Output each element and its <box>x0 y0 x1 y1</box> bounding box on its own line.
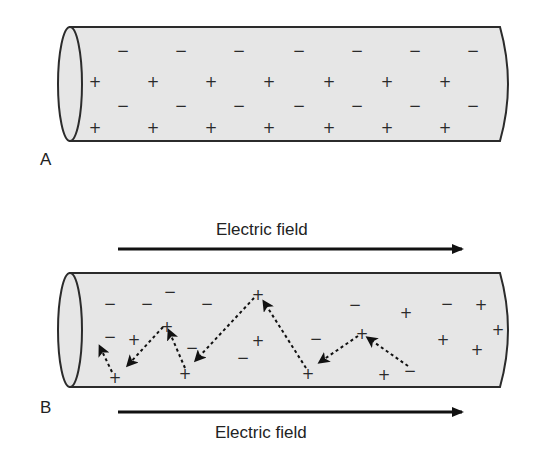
positive-charge: + <box>205 73 218 91</box>
positive-charge: + <box>323 119 336 137</box>
negative-charge: − <box>349 296 362 314</box>
positive-charge: + <box>439 73 452 91</box>
negative-charge: − <box>409 97 422 115</box>
negative-charge: − <box>186 339 199 357</box>
electric-field-label-bottom: Electric field <box>215 423 307 443</box>
negative-charge: − <box>164 283 177 301</box>
positive-charge: + <box>323 73 336 91</box>
negative-charge: − <box>175 97 188 115</box>
positive-charge: + <box>161 318 174 336</box>
positive-charge: + <box>439 119 452 137</box>
negative-charge: − <box>117 42 130 60</box>
positive-charge: + <box>400 304 413 322</box>
positive-charge: + <box>381 73 394 91</box>
positive-charge: + <box>147 119 160 137</box>
tube-body <box>70 273 508 387</box>
negative-charge: − <box>467 42 480 60</box>
negative-charge: − <box>293 42 306 60</box>
positive-charge: + <box>471 341 484 359</box>
positive-charge: + <box>89 73 102 91</box>
negative-charge: − <box>409 42 422 60</box>
electric-field-label-top: Electric field <box>216 220 308 240</box>
negative-charge: − <box>441 295 454 313</box>
conductor-tube-b: −−−−−−−−−−−++++++++++++++ <box>58 273 508 387</box>
positive-charge: + <box>179 365 192 383</box>
negative-charge: − <box>310 330 323 348</box>
negative-charge: − <box>404 362 417 380</box>
negative-charge: − <box>293 97 306 115</box>
positive-charge: + <box>381 119 394 137</box>
positive-charge: + <box>128 331 141 349</box>
positive-charge: + <box>437 331 450 349</box>
negative-charge: − <box>104 295 117 313</box>
tube-end-cap <box>58 27 82 141</box>
positive-charge: + <box>356 325 369 343</box>
negative-charge: − <box>104 328 117 346</box>
positive-charge: + <box>89 119 102 137</box>
negative-charge: − <box>201 295 214 313</box>
positive-charge: + <box>252 286 265 304</box>
negative-charge: − <box>351 42 364 60</box>
negative-charge: − <box>351 97 364 115</box>
panel-label-b: B <box>40 398 51 418</box>
negative-charge: − <box>233 42 246 60</box>
positive-charge: + <box>109 369 122 387</box>
positive-charge: + <box>378 366 391 384</box>
positive-charge: + <box>263 119 276 137</box>
tube-end-cap <box>58 273 82 387</box>
negative-charge: − <box>175 42 188 60</box>
positive-charge: + <box>475 296 488 314</box>
positive-charge: + <box>302 365 315 383</box>
panel-label-a: A <box>40 150 51 170</box>
negative-charge: − <box>141 295 154 313</box>
positive-charge: + <box>263 73 276 91</box>
positive-charge: + <box>492 321 505 339</box>
positive-charge: + <box>252 332 265 350</box>
negative-charge: − <box>233 97 246 115</box>
negative-charge: − <box>237 349 250 367</box>
positive-charge: + <box>205 119 218 137</box>
conductor-tube-a: −−−−−−−+++++++−−−−−−−+++++++ <box>58 27 508 141</box>
positive-charge: + <box>147 73 160 91</box>
negative-charge: − <box>117 97 130 115</box>
negative-charge: − <box>467 97 480 115</box>
